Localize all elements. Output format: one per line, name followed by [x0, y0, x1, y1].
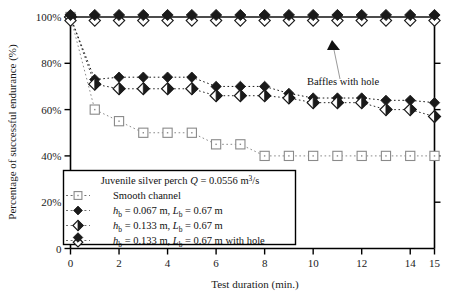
series-lines — [71, 17, 435, 156]
y-tick-label: 40% — [41, 150, 61, 162]
legend-title: Juvenile silver perch Q = 0.0556 m3/s — [101, 174, 260, 187]
annotation-arrow-icon — [327, 40, 340, 50]
annotation-label: Baffles with hole — [307, 76, 379, 87]
series-line-0 — [71, 17, 435, 156]
y-tick-label: 20% — [41, 196, 61, 208]
data-point-open-square — [187, 128, 196, 137]
data-point-open-square — [333, 151, 342, 160]
data-point-filled-diamond — [162, 72, 172, 82]
x-tick-label: 15 — [429, 257, 441, 269]
data-point-open-square — [212, 140, 221, 149]
x-tick-label: 0 — [68, 257, 74, 269]
data-point-half-diamond — [429, 111, 441, 123]
legend-item-label: hb = 0.133 m, Lb = 0.67 m with hole — [113, 235, 265, 249]
chart-figure: 020%40%60%80%100% 0246810121415 Baffles … — [0, 0, 450, 295]
data-point-half-diamond — [113, 83, 125, 95]
data-point-open-square — [284, 151, 293, 160]
data-point-open-square — [236, 140, 245, 149]
data-point-half-diamond — [162, 83, 174, 95]
right-axis-ticks — [435, 63, 441, 202]
series-markers — [65, 9, 441, 160]
data-point-half-diamond — [404, 104, 416, 116]
data-point-half-diamond — [137, 83, 149, 95]
y-tick-label: 100% — [36, 11, 62, 23]
x-tick-label: 10 — [308, 257, 320, 269]
x-tick-label: 2 — [116, 257, 122, 269]
endurance-line-chart: 020%40%60%80%100% 0246810121415 Baffles … — [0, 0, 450, 295]
data-point-half-diamond — [380, 104, 392, 116]
y-axis-title: Percentage of successful endurance (%) — [6, 44, 19, 220]
data-point-open-square — [90, 105, 99, 114]
x-tick-label: 6 — [213, 257, 219, 269]
x-tick-label: 14 — [405, 257, 417, 269]
y-tick-label: 60% — [41, 104, 61, 116]
data-point-open-square — [139, 128, 148, 137]
data-point-open-square — [381, 151, 390, 160]
data-point-open-square — [430, 151, 439, 160]
series-line-2 — [71, 17, 435, 117]
data-point-open-square — [260, 151, 269, 160]
data-point-open-square — [309, 151, 318, 160]
data-point-filled-diamond — [138, 72, 148, 82]
data-point-filled-diamond — [114, 72, 124, 82]
data-point-open-square — [74, 192, 82, 200]
data-point-half-diamond — [259, 90, 271, 102]
legend-item-label: Smooth channel — [113, 190, 181, 201]
data-point-half-diamond — [210, 90, 222, 102]
y-tick-label: 80% — [41, 57, 61, 69]
series-line-1 — [71, 17, 435, 103]
data-point-filled-diamond — [187, 72, 197, 82]
data-point-filled-diamond — [429, 97, 439, 107]
annotation-leader-line — [333, 45, 340, 79]
data-point-open-square — [406, 151, 415, 160]
x-tick-label: 8 — [262, 257, 268, 269]
data-point-open-square — [114, 117, 123, 126]
chart-legend: Juvenile silver perch Q = 0.0556 m3/s Sm… — [64, 171, 296, 249]
x-axis-title: Test duration (min.) — [211, 278, 299, 291]
x-tick-label: 4 — [165, 257, 171, 269]
x-axis-ticks: 0246810121415 — [68, 249, 441, 269]
data-point-half-diamond — [234, 90, 246, 102]
data-point-open-square — [357, 151, 366, 160]
x-tick-label: 12 — [356, 257, 367, 269]
y-tick-label: 0 — [56, 243, 62, 255]
data-point-half-diamond — [186, 83, 198, 95]
annotation-baffles-with-hole: Baffles with hole — [307, 40, 379, 87]
data-point-open-square — [163, 128, 172, 137]
